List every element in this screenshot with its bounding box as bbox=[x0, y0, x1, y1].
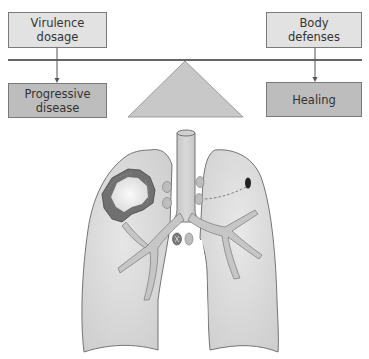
diagram-canvas bbox=[0, 0, 369, 359]
right-lung bbox=[200, 150, 278, 352]
virulence-line2: dosage bbox=[31, 30, 85, 44]
trachea-opening bbox=[177, 130, 195, 136]
progressive-line2: disease bbox=[24, 101, 90, 115]
healing-label: Healing bbox=[292, 93, 336, 107]
lungs-illustration bbox=[82, 130, 278, 352]
lymph-node bbox=[195, 194, 203, 205]
trachea bbox=[172, 133, 200, 222]
arrow-defenses-to-healing bbox=[313, 48, 318, 82]
lymph-node bbox=[163, 182, 172, 193]
defenses-line1: Body bbox=[288, 16, 340, 30]
virulence-line1: Virulence bbox=[31, 16, 85, 30]
progressive-line1: Progressive bbox=[24, 87, 90, 101]
virulence-dosage-box: Virulence dosage bbox=[8, 12, 107, 48]
lymph-node bbox=[185, 233, 193, 245]
arrow-virulence-to-progressive bbox=[55, 48, 60, 83]
fulcrum-triangle bbox=[128, 61, 243, 117]
defenses-line2: defenses bbox=[288, 30, 340, 44]
body-defenses-box: Body defenses bbox=[266, 12, 362, 48]
progressive-disease-box: Progressive disease bbox=[8, 83, 107, 118]
lymph-node bbox=[196, 177, 204, 188]
lymph-node bbox=[163, 198, 172, 209]
healing-box: Healing bbox=[266, 82, 362, 117]
